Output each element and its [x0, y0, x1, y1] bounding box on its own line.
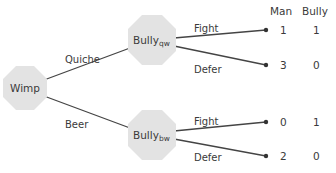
payoff-man: 1	[280, 24, 287, 36]
payoff-header-bully: Bully	[302, 5, 328, 17]
action-label-defer: Defer	[194, 152, 223, 163]
terminal-node	[264, 28, 268, 32]
wimp-label: Wimp	[10, 82, 40, 94]
payoff-man: 2	[280, 150, 287, 162]
payoff-bully: 1	[313, 24, 320, 36]
terminal-node	[264, 120, 268, 124]
terminal-node	[264, 63, 268, 67]
edge-bw-fight	[174, 122, 266, 131]
move-label-quiche: Quiche	[65, 54, 100, 65]
terminal-node	[264, 154, 268, 158]
action-label-fight: Fight	[194, 23, 218, 34]
action-label-fight: Fight	[194, 116, 218, 127]
payoff-header-man: Man	[270, 5, 292, 17]
edge-qw-defer	[174, 46, 266, 65]
move-label-beer: Beer	[65, 119, 89, 130]
payoff-man: 3	[280, 59, 287, 71]
game-tree: Wimp Bullyqw Bullybw Quiche Beer Fight D…	[0, 0, 336, 173]
action-label-defer: Defer	[194, 64, 223, 75]
payoff-bully: 0	[313, 59, 320, 71]
payoff-bully: 0	[313, 150, 320, 162]
edge-qw-fight	[174, 30, 266, 38]
payoff-man: 0	[280, 116, 287, 128]
payoff-bully: 1	[313, 116, 320, 128]
